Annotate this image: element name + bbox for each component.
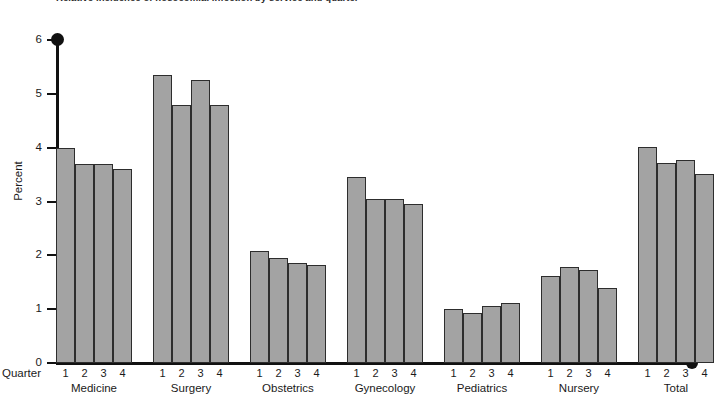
quarter-tick-label: 1 [56, 367, 75, 379]
bar [657, 163, 676, 363]
quarter-tick-label: 3 [288, 367, 307, 379]
bar [94, 164, 113, 363]
quarter-tick-label: 2 [269, 367, 288, 379]
bar [385, 199, 404, 363]
quarter-tick-label: 1 [250, 367, 269, 379]
quarter-tick-label: 4 [113, 367, 132, 379]
group-label: Total [638, 382, 714, 395]
bar [638, 147, 657, 363]
quarter-tick-label: 4 [695, 367, 714, 379]
bar [366, 199, 385, 363]
bar [288, 263, 307, 363]
y-tick-label: 1 [24, 303, 42, 314]
quarter-tick-label: 2 [366, 367, 385, 379]
quarter-tick-label: 2 [657, 367, 676, 379]
bar-group [153, 38, 229, 363]
y-tick-label: 2 [24, 249, 42, 260]
y-tick-label: 3 [24, 196, 42, 207]
y-tick-label: 0 [24, 357, 42, 368]
bar [501, 303, 520, 363]
quarter-tick-label: 4 [210, 367, 229, 379]
group-label: Pediatrics [444, 382, 520, 395]
bar [482, 306, 501, 363]
group-label: Medicine [56, 382, 132, 395]
bar [172, 105, 191, 363]
bar [75, 164, 94, 363]
bar-group [444, 38, 520, 363]
chart-title-text: Relative incidence of nosocomial infecti… [56, 0, 616, 3]
quarter-tick-label: 1 [444, 367, 463, 379]
bar [269, 258, 288, 363]
bar-group [347, 38, 423, 363]
bar [153, 75, 172, 363]
plot-area [56, 38, 692, 363]
quarter-tick-label: 3 [579, 367, 598, 379]
bar-group [250, 38, 326, 363]
quarter-tick-label: 2 [560, 367, 579, 379]
bar [347, 177, 366, 363]
quarter-tick-label: 2 [172, 367, 191, 379]
bar-group [56, 38, 132, 363]
bar [579, 270, 598, 363]
quarter-tick-label: 4 [404, 367, 423, 379]
bar [695, 174, 714, 363]
quarter-tick-label: 3 [385, 367, 404, 379]
quarter-tick-label: 4 [501, 367, 520, 379]
bar [598, 288, 617, 363]
bar [676, 160, 695, 363]
bar [444, 309, 463, 363]
bar [307, 265, 326, 363]
bar-group [638, 38, 714, 363]
quarter-tick-label: 1 [153, 367, 172, 379]
group-label: Surgery [153, 382, 229, 395]
bar [463, 313, 482, 363]
bar [210, 105, 229, 363]
y-tick-label: 6 [24, 34, 42, 45]
quarter-tick-label: 3 [94, 367, 113, 379]
bar [113, 169, 132, 363]
bar [541, 276, 560, 363]
quarter-tick-label: 3 [191, 367, 210, 379]
bar [191, 80, 210, 363]
bar [404, 204, 423, 363]
quarter-tick-label: 4 [598, 367, 617, 379]
quarter-tick-label: 3 [676, 367, 695, 379]
group-label: Gynecology [347, 382, 423, 395]
bar [56, 148, 75, 363]
quarter-tick-label: 1 [638, 367, 657, 379]
bar [560, 267, 579, 363]
y-tick-label: 4 [24, 142, 42, 153]
quarter-axis-label: Quarter [2, 367, 41, 380]
quarter-tick-label: 1 [541, 367, 560, 379]
chart-title: Relative incidence of nosocomial infecti… [56, 0, 616, 4]
quarter-tick-label: 1 [347, 367, 366, 379]
quarter-tick-label: 2 [463, 367, 482, 379]
quarter-tick-label: 3 [482, 367, 501, 379]
quarter-tick-label: 2 [75, 367, 94, 379]
bar-group [541, 38, 617, 363]
y-axis-title: Percent [12, 146, 24, 216]
group-label: Obstetrics [250, 382, 326, 395]
quarter-tick-label: 4 [307, 367, 326, 379]
y-tick-label: 5 [24, 88, 42, 99]
bar [250, 251, 269, 363]
group-label: Nursery [541, 382, 617, 395]
